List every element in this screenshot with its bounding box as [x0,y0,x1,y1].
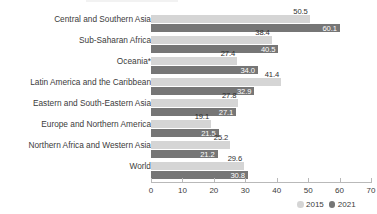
chart-row: Central and Southern Asia50.560.1 [0,14,377,35]
chart-row: World29.630.8 [0,161,377,182]
bar-2015[interactable] [151,57,237,65]
row-bars: 27.827.1 [151,98,371,119]
bar-value-label-2015: 27.8 [222,92,238,100]
bar-value-label-2015: 29.6 [228,155,244,163]
chart-row: Oceania*27.434.0 [0,56,377,77]
bar-value-label-2021: 40.5 [261,46,278,54]
bar-value-label-2021: 27.1 [219,109,236,117]
bar-2015[interactable] [151,78,281,86]
x-axis-tick [340,178,341,182]
x-axis-tick [151,178,152,182]
bar-value-label-2021: 34.0 [240,67,257,75]
bar-value-label-2015: 41.4 [265,71,281,79]
category-label: Northern Africa and Western Asia [5,140,151,150]
chart-row: Eastern and South-Eastern Asia27.827.1 [0,98,377,119]
legend-label-2021: 2021 [338,200,356,209]
legend-circle-icon-2015 [297,201,304,208]
row-bars: 19.121.5 [151,119,371,140]
category-label: World [5,161,151,171]
bar-2021[interactable] [151,24,340,32]
row-bars: 38.440.5 [151,35,371,56]
x-axis-tick-label: 20 [209,186,218,195]
x-axis-tick-label: 40 [272,186,281,195]
x-axis-line [151,182,372,183]
chart-row: Sub-Saharan Africa38.440.5 [0,35,377,56]
legend-item-2021: 2021 [329,200,356,209]
legend-label-2015: 2015 [306,200,324,209]
category-label: Sub-Saharan Africa [5,35,151,45]
bar-2021[interactable] [151,45,278,53]
bar-value-label-2015: 38.4 [255,29,271,37]
x-axis-tick-label: 0 [149,186,153,195]
x-axis-tick [214,178,215,182]
bar-value-label-2015: 25.2 [214,134,230,142]
row-bars: 41.432.9 [151,77,371,98]
legend-item-2015: 2015 [297,200,324,209]
bar-chart: Central and Southern Asia50.560.1Sub-Sah… [0,0,377,214]
bar-2015[interactable] [151,99,238,107]
bar-2015[interactable] [151,15,310,23]
x-axis-tick-label: 50 [304,186,313,195]
x-axis-tick-label: 10 [178,186,187,195]
bar-2015[interactable] [151,141,230,149]
category-label: Eastern and South-Eastern Asia [5,98,151,108]
bar-value-label-2021: 21.2 [200,151,217,159]
category-label: Europe and Northern America [5,119,151,129]
bar-value-label-2015: 50.5 [293,8,309,16]
chart-legend: 2015 2021 [297,200,356,209]
category-label: Latin America and the Caribbean [5,77,151,87]
legend-circle-icon-2021 [329,201,336,208]
bar-value-label-2021: 32.9 [237,88,254,96]
x-axis-tick [277,178,278,182]
bar-value-label-2015: 19.1 [195,113,211,121]
x-axis-tick [182,178,183,182]
bar-2015[interactable] [151,120,211,128]
x-axis-tick [245,178,246,182]
chart-row: Europe and Northern America19.121.5 [0,119,377,140]
chart-row: Latin America and the Caribbean41.432.9 [0,77,377,98]
x-axis-tick [371,178,372,182]
x-axis-tick-label: 60 [335,186,344,195]
chart-row: Northern Africa and Western Asia25.221.2 [0,140,377,161]
bar-2015[interactable] [151,162,244,170]
x-axis-tick [308,178,309,182]
row-bars: 27.434.0 [151,56,371,77]
x-axis-tick-label: 70 [367,186,376,195]
bar-value-label-2021: 60.1 [322,25,339,33]
x-axis-tick-label: 30 [241,186,250,195]
bar-value-label-2015: 27.4 [221,50,237,58]
row-bars: 29.630.8 [151,161,371,182]
row-bars: 25.221.2 [151,140,371,161]
category-label: Central and Southern Asia [5,14,151,24]
bar-2015[interactable] [151,36,272,44]
category-label: Oceania* [5,56,151,66]
